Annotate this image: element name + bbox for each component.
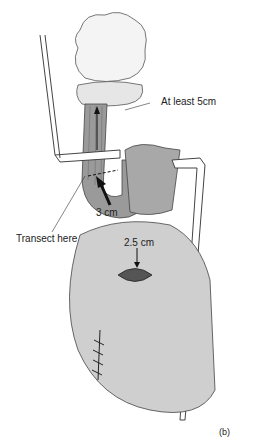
tumor-mass [75,12,146,81]
label-transect-here: Transect here [16,233,77,244]
label-3cm: 3 cm [96,207,118,218]
label-2-5cm: 2.5 cm [124,237,154,248]
panel-label: (b) [219,427,230,437]
label-at-least-5cm: At least 5cm [161,96,216,107]
surgical-illustration [0,0,253,447]
rectal-stump [69,222,215,413]
